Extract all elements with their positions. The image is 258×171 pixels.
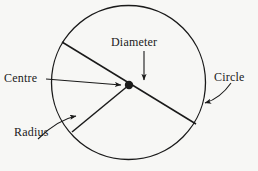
radius-line bbox=[72, 85, 129, 132]
centre-point-dot bbox=[125, 81, 133, 89]
circle-leader-arrow bbox=[205, 83, 231, 103]
centre-leader-arrow bbox=[46, 79, 121, 85]
diagram-canvas bbox=[0, 0, 258, 171]
label-radius: Radius bbox=[14, 126, 49, 138]
label-circle: Circle bbox=[214, 71, 245, 83]
circle-diagram: Diameter Centre Circle Radius bbox=[0, 0, 258, 171]
label-diameter: Diameter bbox=[111, 36, 157, 48]
label-centre: Centre bbox=[4, 72, 37, 84]
